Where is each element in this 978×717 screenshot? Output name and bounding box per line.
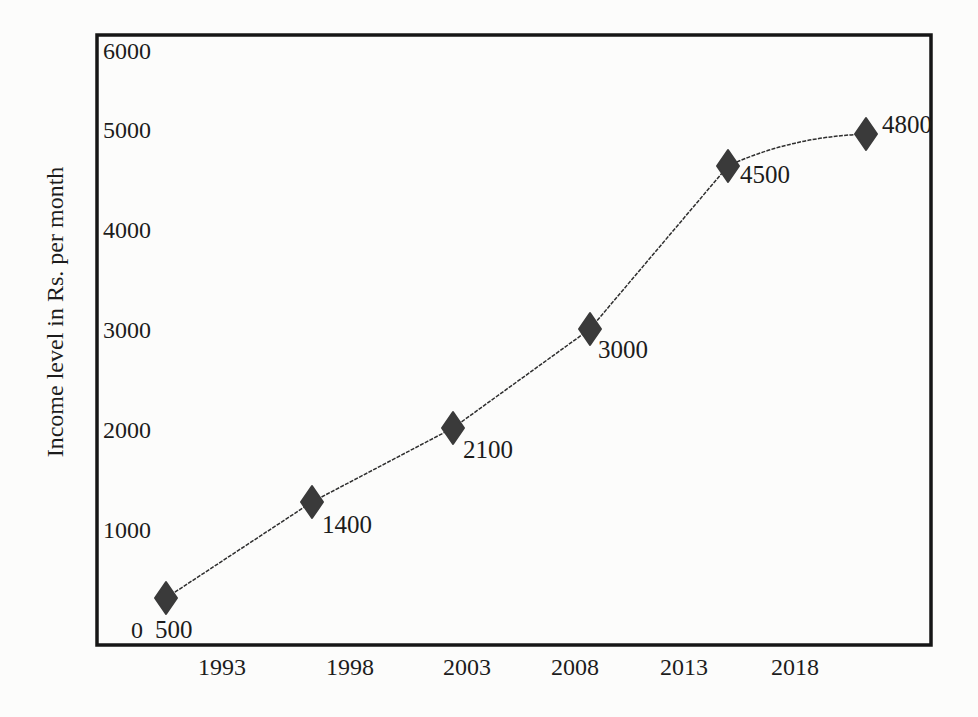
data-point-label: 2100: [463, 436, 513, 463]
data-point-marker: [155, 582, 177, 614]
y-tick-label: 2000: [103, 417, 151, 443]
data-point-marker: [855, 118, 877, 150]
data-point-label: 4500: [740, 161, 790, 188]
scanned-line-chart-page: Income level in Rs. per month 0100020003…: [0, 0, 978, 717]
data-point-marker: [442, 412, 464, 444]
y-tick-label: 4000: [103, 217, 151, 243]
x-tick-label: 2013: [660, 654, 708, 680]
x-tick-label: 1993: [198, 654, 246, 680]
data-point-label: 3000: [598, 336, 648, 363]
y-tick-label: 1000: [103, 517, 151, 543]
data-point-label: 1400: [322, 511, 372, 538]
x-tick-label: 2018: [771, 654, 819, 680]
y-tick-label: 3000: [103, 317, 151, 343]
data-point-marker: [301, 486, 323, 518]
plot-border: [97, 35, 931, 645]
data-point-labels: 50014002100300045004800: [155, 111, 932, 643]
y-tick-label: 6000: [103, 38, 151, 64]
x-tick-label: 2003: [443, 654, 491, 680]
line-chart-svg: Income level in Rs. per month 0100020003…: [0, 0, 978, 717]
series-line: [166, 134, 866, 598]
data-point-marker: [717, 150, 739, 182]
x-tick-label: 1998: [326, 654, 374, 680]
y-axis-title: Income level in Rs. per month: [42, 167, 68, 458]
data-point-label: 4800: [882, 111, 932, 138]
y-axis-tick-labels: 0100020003000400050006000: [103, 38, 151, 643]
income-series: [155, 118, 877, 614]
x-axis-tick-labels: 199319982003200820132018: [198, 654, 819, 680]
x-tick-label: 2008: [551, 654, 599, 680]
data-point-label: 500: [155, 616, 193, 643]
y-tick-label: 5000: [103, 117, 151, 143]
y-tick-label: 0: [131, 617, 143, 643]
